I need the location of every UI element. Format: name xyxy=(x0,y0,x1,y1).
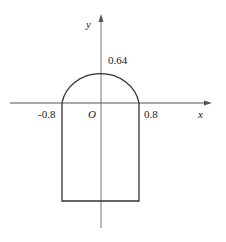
tick-label-x-pos: 0.8 xyxy=(144,108,158,120)
y-axis-arrow-icon xyxy=(99,14,104,22)
tick-label-x-neg: -0.8 xyxy=(38,108,56,120)
x-axis-arrow-icon xyxy=(204,101,212,106)
diagram-canvas: y x O -0.8 0.8 0.64 xyxy=(0,0,226,242)
x-axis-label: x xyxy=(197,108,203,120)
origin-label: O xyxy=(88,108,96,120)
y-axis-label: y xyxy=(85,18,91,30)
tick-label-y-top: 0.64 xyxy=(108,54,128,66)
